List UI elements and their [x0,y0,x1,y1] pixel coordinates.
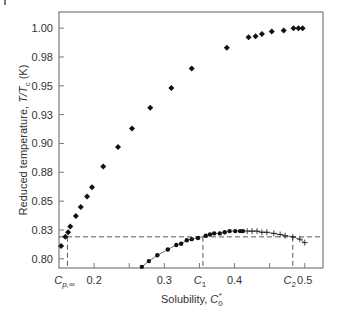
data-point [254,228,260,234]
data-point [166,247,170,251]
reference-label: C1 [194,274,207,289]
data-point [179,242,183,246]
series-diamond [58,25,306,249]
y-tick-label: 0.90 [32,137,53,149]
data-point [73,213,79,219]
x-tick-label: 0.2 [86,274,101,286]
data-point [246,34,252,40]
data-point [65,229,71,235]
x-tick-label: 0.5 [297,274,312,286]
x-axis-title: Solubility, C0* [161,291,223,308]
data-point [140,265,144,269]
data-series [58,25,308,269]
y-tick-label: 0.93 [32,109,53,121]
data-point [227,229,231,233]
plot-border [59,12,323,268]
y-tick-label: 0.83 [32,224,53,236]
y-tick-label: 0.80 [32,253,53,265]
data-point [190,237,194,241]
reference-label: Cp,∞ [54,274,75,289]
data-point [168,85,174,91]
data-point [84,194,90,200]
data-point [271,230,277,236]
data-point [78,204,84,210]
data-point [264,229,270,235]
y-axis-title: Reduced temperature, T/Tc (K) [17,65,32,216]
data-point [155,253,159,257]
data-point [300,25,306,31]
data-point [129,125,135,131]
data-point [147,105,153,111]
x-tick-label: 0.4 [227,274,242,286]
y-tick-label: 0.95 [32,80,53,92]
data-point [259,31,265,37]
data-point [208,232,212,236]
data-point [269,29,275,35]
data-point [100,164,106,170]
data-point [189,66,195,72]
data-point [223,230,227,234]
y-tick-label: 1.00 [32,22,53,34]
data-point [281,27,287,33]
plot-frame [59,12,323,268]
data-point [67,223,73,229]
data-point [174,243,178,247]
data-point [282,233,288,239]
data-point [147,259,151,263]
data-point [212,231,216,235]
reference-label: C2 [284,274,297,289]
data-point [233,229,237,233]
y-tick-label: 0.98 [32,51,53,63]
series-circle [140,229,246,269]
y-tick-label: 0.88 [32,166,53,178]
y-tick-label: 0.85 [32,195,53,207]
solubility-temperature-chart: Cp,∞C1C2 1.000.980.950.930.900.880.850.8… [0,0,338,315]
x-tick-label: 0.3 [157,274,172,286]
data-point [224,45,230,51]
data-point [302,240,308,246]
data-point [89,184,95,190]
data-point [218,231,222,235]
data-point [196,236,200,240]
data-point [253,33,259,39]
data-point [185,238,189,242]
data-point [290,234,296,240]
data-point [204,234,208,238]
data-point [115,144,121,150]
